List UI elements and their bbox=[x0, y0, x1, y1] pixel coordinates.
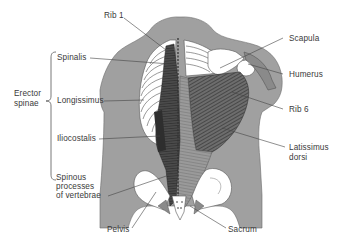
label-spinalis: Spinalis bbox=[57, 53, 86, 63]
label-erector-spinae-line1: Erector bbox=[14, 89, 41, 99]
label-sacrum: Sacrum bbox=[228, 225, 257, 235]
label-latissimus-dorsi-line2: dorsi bbox=[289, 153, 307, 163]
label-rib-6: Rib 6 bbox=[289, 105, 309, 115]
label-latissimus-dorsi-line1: Latissimus bbox=[289, 143, 329, 153]
sacrum bbox=[172, 196, 186, 220]
erector-spinae-brace bbox=[46, 52, 56, 180]
label-rib-1: Rib 1 bbox=[104, 11, 124, 21]
label-iliocostalis: Iliocostalis bbox=[57, 134, 96, 144]
label-longissimus: Longissimus bbox=[57, 96, 104, 106]
label-pelvis: Pelvis bbox=[107, 225, 129, 235]
label-spinous-processes-line3: of vertebrae bbox=[56, 191, 101, 201]
label-humerus: Humerus bbox=[289, 70, 323, 80]
label-scapula: Scapula bbox=[289, 34, 319, 44]
back-muscles-diagram: Rib 1 Spinalis Longissimus Iliocostalis … bbox=[0, 0, 343, 243]
label-erector-spinae-line2: spinae bbox=[14, 99, 39, 109]
